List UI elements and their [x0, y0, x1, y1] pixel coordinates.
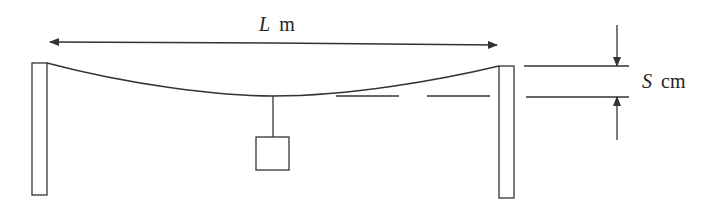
hanging-weight — [256, 96, 289, 170]
sagging-wire — [47, 63, 499, 96]
weight-box — [256, 137, 289, 170]
sag-label: S cm — [642, 70, 686, 92]
left-post — [32, 63, 47, 195]
wire-sag-diagram: L m S cm — [0, 0, 708, 201]
span-label: L m — [258, 13, 295, 35]
span-dimension-arrow — [50, 42, 497, 45]
dashed-reference-line — [336, 96, 629, 97]
right-post — [499, 66, 514, 198]
